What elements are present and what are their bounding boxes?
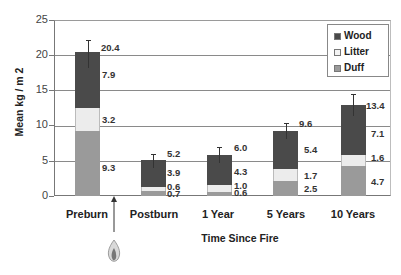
duff-swatch (334, 65, 341, 72)
tick-mark (49, 196, 54, 197)
error-cap (151, 154, 156, 155)
error-bar (286, 123, 287, 139)
wood-label-1-year: 4.3 (234, 166, 247, 177)
legend-label: Litter (344, 46, 369, 57)
litter-label-5-years: 1.7 (304, 170, 317, 181)
wood-label-5-years: 5.4 (304, 144, 317, 155)
x-label-10-years: 10 Years (318, 208, 388, 220)
segment-duff (75, 131, 100, 196)
segment-litter (75, 108, 100, 131)
y-tick-5: 5 (30, 154, 48, 166)
x-label-5-years: 5 Years (251, 208, 321, 220)
litter-swatch (334, 49, 341, 56)
legend-item-duff: Duff (334, 62, 364, 73)
segment-duff (341, 166, 366, 196)
fire-arrow-icon (104, 196, 124, 264)
error-bar (88, 40, 89, 68)
legend-item-litter: Litter (334, 46, 369, 57)
x-label-postburn: Postburn (119, 208, 189, 220)
legend-label: Wood (344, 30, 372, 41)
litter-label-10-years: 1.6 (371, 152, 384, 163)
segment-litter (341, 155, 366, 166)
duff-label-postburn: 0.7 (167, 188, 180, 199)
y-tick-0: 0 (30, 189, 48, 201)
y-tick-25: 25 (30, 13, 48, 25)
duff-label-5-years: 2.5 (304, 183, 317, 194)
y-tick-20: 20 (30, 48, 48, 60)
bar-preburn (75, 52, 100, 196)
segment-litter (207, 185, 232, 192)
error-bar (153, 154, 154, 168)
total-label-1-year: 6.0 (234, 142, 247, 153)
error-cap (351, 94, 356, 95)
error-bar (353, 94, 354, 116)
segment-litter (273, 169, 298, 181)
total-label-10-years: 13.4 (366, 100, 385, 111)
wood-swatch (334, 33, 341, 40)
segment-duff (141, 191, 166, 196)
error-cap (86, 40, 91, 41)
error-cap (284, 123, 289, 124)
duff-label-preburn: 9.3 (102, 162, 115, 173)
bar-5-years (273, 131, 298, 196)
total-label-5-years: 9.6 (299, 118, 312, 129)
error-cap (217, 147, 222, 148)
x-axis-title: Time Since Fire (160, 232, 320, 244)
total-label-preburn: 20.4 (101, 42, 120, 53)
duff-label-1-year: 0.6 (234, 187, 247, 198)
error-bar (219, 147, 220, 163)
wood-label-preburn: 7.9 (102, 69, 115, 80)
total-label-postburn: 5.2 (167, 148, 180, 159)
y-axis-title: Mean kg / m 2 (13, 57, 25, 147)
legend-item-wood: Wood (334, 30, 372, 41)
wood-label-10-years: 7.1 (371, 128, 384, 139)
litter-label-preburn: 3.2 (102, 114, 115, 125)
y-tick-10: 10 (30, 118, 48, 130)
legend-label: Duff (344, 62, 364, 73)
segment-duff (273, 181, 298, 196)
segment-duff (207, 192, 232, 196)
y-tick-15: 15 (30, 83, 48, 95)
wood-label-postburn: 3.9 (167, 167, 180, 178)
duff-label-10-years: 4.7 (371, 176, 384, 187)
bar-10-years (341, 105, 366, 196)
x-label-1-year: 1 Year (183, 208, 253, 220)
gridline-10 (55, 126, 390, 127)
legend: Wood Litter Duff (327, 24, 389, 77)
gridline-15 (55, 90, 390, 91)
